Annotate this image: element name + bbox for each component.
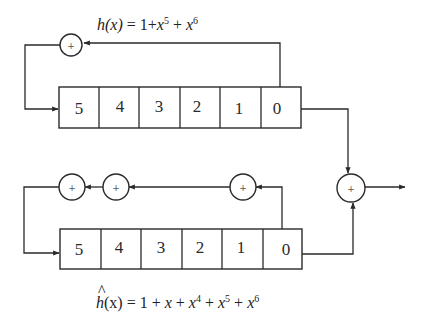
top-input-line	[25, 45, 60, 109]
top-cell-2: 2	[193, 97, 202, 116]
bottom-cell-1: 1	[237, 238, 246, 257]
lfsr-diagram: h(x) = 1+x5 + x6 + 5 4 3 2 1 0 + +	[0, 0, 424, 324]
svg-text:+: +	[67, 41, 75, 51]
top-cell-5: 5	[75, 99, 84, 118]
svg-text:+: +	[239, 183, 247, 193]
svg-text:+: +	[68, 183, 76, 193]
bottom-adder-1: +	[59, 174, 85, 200]
svg-text:+: +	[112, 183, 120, 193]
top-register: 5 4 3 2 1 0	[59, 87, 301, 128]
bottom-adder-2: +	[103, 174, 129, 200]
bottom-feedback-line	[256, 187, 282, 229]
svg-text:+: +	[347, 184, 355, 194]
top-equation: h(x) = 1+x5 + x6	[97, 15, 198, 34]
top-adder: +	[60, 34, 82, 56]
bottom-cell-4: 4	[115, 238, 124, 257]
bottom-cell-0: 0	[282, 240, 291, 259]
output-adder: +	[337, 174, 365, 202]
top-output-line	[301, 109, 348, 173]
bottom-cell-3: 3	[157, 238, 166, 257]
bottom-cell-2: 2	[196, 238, 205, 257]
bottom-equation: h(x) = 1 + x + x4 + x5 + x6	[96, 293, 259, 312]
top-cell-3: 3	[155, 97, 164, 116]
top-cell-4: 4	[116, 97, 125, 116]
bottom-input-line	[24, 187, 60, 253]
bottom-cell-5: 5	[75, 240, 84, 259]
bottom-register: 5 4 3 2 1 0	[60, 229, 302, 269]
top-feedback-line	[84, 43, 280, 87]
bottom-adder-3: +	[230, 174, 256, 200]
top-cell-1: 1	[235, 99, 244, 118]
top-cell-0: 0	[273, 99, 282, 118]
bottom-output-line	[302, 203, 353, 254]
